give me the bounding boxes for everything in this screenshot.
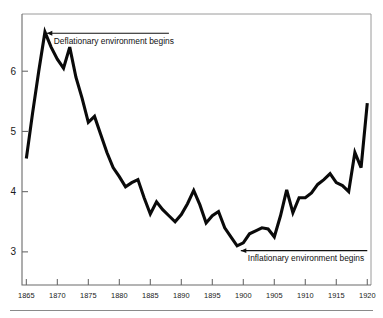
x-axis-tick-label: 1905 xyxy=(266,291,282,300)
x-axis-tick-label: 1885 xyxy=(142,291,158,300)
annotation-arrow-head-inflationary xyxy=(241,248,247,253)
x-axis-tick-label: 1875 xyxy=(80,291,96,300)
data-series-line xyxy=(26,32,367,246)
x-axis-tick-label: 1910 xyxy=(297,291,313,300)
x-axis-tick-label: 1890 xyxy=(173,291,189,300)
y-axis-tick-label: 4 xyxy=(10,186,16,197)
x-axis-tick-label: 1900 xyxy=(235,291,251,300)
x-axis-tick-label: 1880 xyxy=(111,291,127,300)
plot-frame xyxy=(22,14,371,285)
y-axis-tick-label: 3 xyxy=(10,246,16,257)
y-axis-tick-label: 6 xyxy=(10,66,16,77)
x-axis-tick-label: 1865 xyxy=(18,291,34,300)
annotation-label-deflationary: Deflationary environment begins xyxy=(54,36,174,46)
line-chart-canvas: 3456186518701875188018851890189519001905… xyxy=(0,0,383,318)
plot-axes xyxy=(22,14,371,285)
chart-figure: 3456186518701875188018851890189519001905… xyxy=(0,0,383,318)
y-axis-tick-label: 5 xyxy=(10,126,16,137)
x-axis-tick-label: 1870 xyxy=(49,291,65,300)
x-axis-tick-label: 1915 xyxy=(328,291,344,300)
x-axis-tick-label: 1895 xyxy=(204,291,220,300)
annotation-label-inflationary: Inflationary environment begins xyxy=(248,253,364,263)
x-axis-tick-label: 1920 xyxy=(359,291,375,300)
